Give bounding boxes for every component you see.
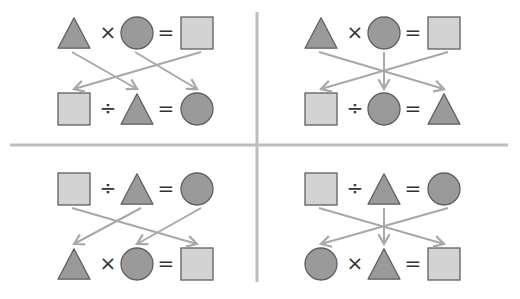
square-shape [305, 173, 337, 205]
circle-shape [428, 173, 460, 205]
circle-shape [368, 17, 400, 49]
bottom-equation: ×= [58, 248, 213, 280]
top-equation: ×= [305, 17, 460, 49]
triangle-shape [368, 249, 400, 279]
relationship-arrow [135, 52, 197, 89]
top-equation: ÷= [305, 173, 460, 205]
circle-shape [121, 17, 153, 49]
top-equation: ×= [58, 17, 213, 49]
panel-top-right: ×=÷= [305, 17, 460, 125]
circle-shape [121, 248, 153, 280]
divide-sign: ÷ [100, 96, 117, 120]
panel-bottom-left: ÷=×= [58, 173, 213, 280]
relationship-arrow [137, 208, 201, 244]
multiply-sign: × [347, 20, 364, 44]
equals-sign: = [405, 251, 422, 275]
equals-sign: = [405, 96, 422, 120]
divide-sign: ÷ [347, 176, 364, 200]
top-equation: ÷= [58, 173, 213, 205]
equals-sign: = [158, 251, 175, 275]
panel-top-left: ×=÷= [58, 17, 213, 125]
circle-shape [181, 173, 213, 205]
equals-sign: = [158, 96, 175, 120]
circle-shape [368, 93, 400, 125]
square-shape [58, 93, 90, 125]
triangle-shape [121, 174, 153, 204]
relationship-arrow [74, 52, 201, 89]
equals-sign: = [158, 20, 175, 44]
square-shape [181, 248, 213, 280]
divide-sign: ÷ [100, 176, 117, 200]
divide-sign: ÷ [347, 96, 364, 120]
bottom-equation: ×= [305, 248, 460, 280]
triangle-shape [58, 18, 90, 48]
fact-family-diagram: ×=÷=×=÷=÷=×=÷=×= [0, 0, 520, 299]
square-shape [428, 248, 460, 280]
triangle-shape [428, 94, 460, 124]
square-shape [181, 17, 213, 49]
panel-bottom-right: ÷=×= [305, 173, 460, 280]
multiply-sign: × [100, 20, 117, 44]
triangle-shape [121, 94, 153, 124]
relationship-arrow [72, 52, 137, 89]
multiply-sign: × [100, 251, 117, 275]
relationship-arrow [72, 208, 197, 244]
triangle-shape [368, 174, 400, 204]
bottom-equation: ÷= [58, 93, 213, 125]
equals-sign: = [158, 176, 175, 200]
bottom-equation: ÷= [305, 93, 460, 125]
triangle-shape [305, 18, 337, 48]
square-shape [58, 173, 90, 205]
triangle-shape [58, 249, 90, 279]
equals-sign: = [405, 176, 422, 200]
circle-shape [305, 248, 337, 280]
multiply-sign: × [347, 251, 364, 275]
circle-shape [181, 93, 213, 125]
square-shape [428, 17, 460, 49]
equals-sign: = [405, 20, 422, 44]
square-shape [305, 93, 337, 125]
